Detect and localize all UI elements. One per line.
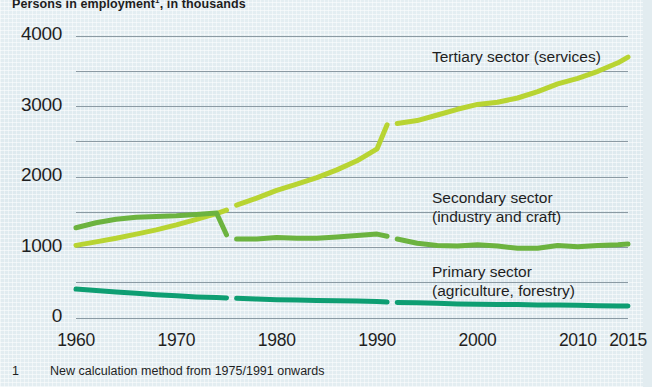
footnote: 1New calculation method from 1975/1991 o… [12, 364, 324, 378]
series-line-secondary [237, 234, 388, 239]
series-label-tertiary-line1: Tertiary sector (services) [432, 47, 601, 66]
y-axis-tick-label: 0 [0, 305, 62, 327]
series-label-primary-line1: Primary sector [432, 262, 575, 281]
series-line-primary [237, 298, 388, 302]
series-line-primary [397, 303, 628, 307]
x-axis-tick-label: 2015 [596, 330, 652, 351]
series-label-secondary: Secondary sector (industry and craft) [432, 188, 561, 226]
series-label-primary: Primary sector (agriculture, forestry) [432, 262, 575, 300]
series-line-secondary [397, 239, 628, 248]
series-line-tertiary [237, 125, 388, 205]
x-axis-tick-label: 1990 [345, 330, 409, 351]
x-axis-tick-label: 1960 [44, 330, 108, 351]
y-axis-tick-label: 1000 [0, 235, 62, 257]
y-axis-tick-label: 3000 [0, 94, 62, 116]
series-label-secondary-line1: Secondary sector [432, 188, 561, 207]
series-label-tertiary: Tertiary sector (services) [432, 47, 601, 66]
x-axis-tick-label: 1980 [245, 330, 309, 351]
series-label-primary-line2: (agriculture, forestry) [432, 281, 575, 300]
footnote-marker: 1 [12, 364, 50, 378]
series-label-secondary-line2: (industry and craft) [432, 207, 561, 226]
series-line-tertiary [397, 57, 628, 123]
series-line-primary [76, 289, 227, 298]
y-axis-tick-label: 2000 [0, 164, 62, 186]
x-axis-tick-label: 2000 [445, 330, 509, 351]
y-axis-tick-label: 4000 [0, 23, 62, 45]
footnote-text: New calculation method from 1975/1991 on… [50, 364, 324, 378]
x-axis-tick-label: 1970 [144, 330, 208, 351]
